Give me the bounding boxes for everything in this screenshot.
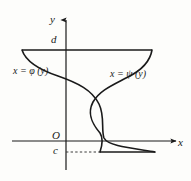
y-axis-label: y (50, 14, 55, 25)
curve-psi-label: x = ψ (y) (110, 69, 146, 79)
origin-label: O (52, 130, 60, 141)
lower-bound-label-c: c (53, 145, 58, 156)
figure-canvas (0, 0, 191, 181)
math-figure: y x O d c x = φ (y) x = ψ (y) (0, 0, 191, 181)
curve-phi-label: x = φ (y) (13, 66, 48, 76)
x-axis-label: x (178, 137, 183, 148)
curve-psi (90, 50, 152, 152)
upper-bound-label-d: d (51, 34, 57, 45)
